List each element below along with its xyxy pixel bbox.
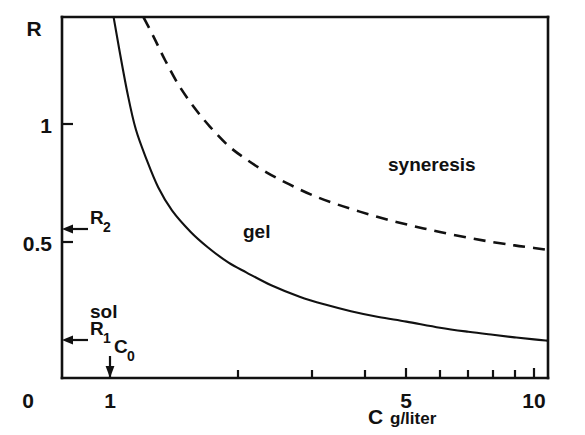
x-axis-ticks (110, 368, 534, 378)
phase-diagram-figure: R 1 0.5 0 1 5 10 C g/liter sol gel syner… (0, 0, 585, 435)
y-axis-label: R (26, 17, 41, 40)
ytick-label-05: 0.5 (23, 232, 53, 255)
marker-C0-symbol: C (114, 336, 128, 357)
marker-R2-symbol: R (90, 207, 104, 228)
y-axis-ticks (62, 124, 73, 242)
x-axis-symbol: C (368, 405, 383, 428)
marker-R1-subscript: 1 (103, 330, 111, 346)
chart-svg: R 1 0.5 0 1 5 10 C g/liter sol gel syner… (0, 0, 585, 435)
xtick-label-1: 1 (104, 389, 116, 412)
plot-frame (62, 17, 548, 378)
curve-gel-syneresis-boundary (144, 17, 547, 249)
marker-R1-symbol: R (90, 318, 104, 339)
curve-sol-gel-boundary (114, 17, 548, 340)
marker-R1: R 1 (62, 318, 111, 346)
xtick-label-10: 10 (522, 389, 545, 412)
marker-R1-arrow-head-icon (62, 336, 73, 345)
marker-R2-arrow-head-icon (62, 225, 73, 234)
region-label-gel: gel (243, 221, 270, 242)
region-label-syneresis: syneresis (388, 154, 476, 175)
marker-R2: R 2 (62, 207, 111, 235)
marker-C0-subscript: 0 (127, 348, 135, 364)
origin-label: 0 (22, 389, 34, 412)
x-axis-unit: g/liter (390, 409, 437, 428)
ytick-label-1: 1 (40, 114, 52, 137)
marker-R2-subscript: 2 (103, 219, 111, 235)
x-axis-title: C g/liter (368, 405, 437, 428)
marker-C0-arrow-head-icon (106, 366, 115, 378)
